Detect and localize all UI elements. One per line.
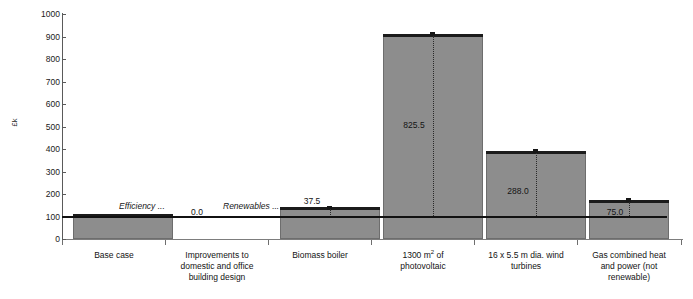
category-line: Base case (62, 250, 166, 261)
y-tick-label: 900 (26, 33, 60, 42)
y-tick-mark (62, 127, 66, 128)
y-tick-label: 1000 (26, 10, 60, 19)
y-tick-mark (62, 82, 66, 83)
y-tick-400: 400 (20, 145, 60, 154)
y-tick-500: 500 (20, 123, 60, 132)
category-line: 16 x 5.5 m dia. wind (474, 250, 578, 261)
category-label-wind-turbines: 16 x 5.5 m dia. wind turbines (474, 250, 578, 272)
annotation-efficiency: Efficiency ... (119, 201, 165, 211)
x-tick-sep (577, 240, 578, 245)
y-tick-mark (62, 172, 66, 173)
category-label-improvements: Improvements to domestic and office buil… (165, 250, 269, 283)
y-tick-mark (62, 37, 66, 38)
category-line: turbines (474, 261, 578, 272)
y-tick-800: 800 (20, 55, 60, 64)
y-tick-mark (62, 149, 66, 150)
y-tick-1000: 1000 (20, 10, 60, 19)
y-tick-label: 700 (26, 78, 60, 87)
x-tick-sep (371, 240, 372, 245)
reference-line-100 (62, 216, 667, 218)
category-line: domestic and office (165, 261, 269, 272)
category-line: photovoltaic (371, 261, 475, 272)
y-tick-900: 900 (20, 33, 60, 42)
x-tick-sep (681, 240, 682, 245)
value-label-wind-turbines: 288.0 (500, 186, 536, 196)
annotation-renewables: Renewables ... (223, 201, 279, 211)
x-tick-sep (165, 240, 166, 245)
y-tick-label: 400 (26, 145, 60, 154)
category-label-base-case: Base case (62, 250, 166, 261)
x-axis-line (62, 239, 683, 240)
y-tick-label: 600 (26, 100, 60, 109)
category-line: and power (not (577, 261, 681, 272)
bar-dotline-photovoltaic (433, 36, 434, 216)
category-line-text: of (434, 250, 443, 260)
category-line: 1300 m2 of (371, 250, 475, 261)
category-line: renewable) (577, 272, 681, 283)
y-tick-label: 300 (26, 168, 60, 177)
y-tick-label: 500 (26, 123, 60, 132)
y-tick-600: 600 (20, 100, 60, 109)
chart-canvas: £k 1000 900 800 700 600 500 400 300 200 … (0, 0, 693, 299)
category-line: building design (165, 272, 269, 283)
y-tick-mark (62, 14, 66, 15)
x-tick-sep (268, 240, 269, 245)
bar-base-case[interactable] (73, 215, 173, 239)
category-label-biomass-boiler: Biomass boiler (268, 250, 372, 261)
y-tick-mark (62, 104, 66, 105)
y-tick-200: 200 (20, 190, 60, 199)
y-tick-label: 0 (26, 235, 60, 244)
bar-dotline-wind-turbines (536, 153, 537, 216)
category-line: Biomass boiler (268, 250, 372, 261)
y-tick-label: 200 (26, 190, 60, 199)
category-line: Improvements to (165, 250, 269, 261)
category-label-gas-chp: Gas combined heat and power (not renewab… (577, 250, 681, 283)
x-tick-sep (474, 240, 475, 245)
y-tick-mark (62, 194, 66, 195)
y-tick-100: 100 (20, 213, 60, 222)
value-label-photovoltaic: 825.5 (396, 120, 432, 130)
category-line-text: 1300 m (402, 250, 430, 260)
y-tick-300: 300 (20, 168, 60, 177)
y-axis-title: £k (10, 111, 19, 135)
y-tick-label: 100 (26, 213, 60, 222)
value-label-biomass-boiler: 37.5 (295, 196, 329, 206)
x-tick-sep (62, 240, 63, 245)
category-line: Gas combined heat (577, 250, 681, 261)
y-tick-mark (62, 59, 66, 60)
y-tick-0: 0 (20, 235, 60, 244)
y-tick-700: 700 (20, 78, 60, 87)
y-tick-label: 800 (26, 55, 60, 64)
category-label-photovoltaic: 1300 m2 of photovoltaic (371, 250, 475, 272)
